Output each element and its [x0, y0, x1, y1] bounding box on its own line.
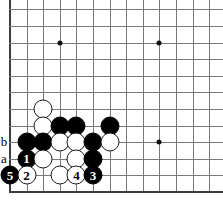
move-stone-2-white: 2 [17, 166, 36, 185]
go-board-diagram: 15243 ba [0, 0, 223, 206]
move-number: 5 [7, 168, 14, 181]
stone-white [34, 149, 53, 168]
move-number: 2 [23, 168, 30, 181]
move-stone-3-black: 3 [84, 166, 103, 185]
coordinate-label-b: b [1, 134, 8, 150]
move-number: 4 [73, 168, 80, 181]
move-number: 3 [90, 168, 97, 181]
coordinate-label-a: a [1, 151, 7, 167]
move-number: 1 [23, 152, 30, 165]
stone-white [100, 133, 119, 152]
